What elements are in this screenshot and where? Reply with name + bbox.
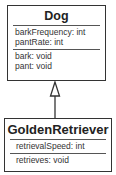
method: bark: void <box>15 51 105 61</box>
hollow-triangle-arrow-icon <box>51 82 60 96</box>
attributes-section: barkFrequency: int pantRate: int <box>8 26 105 49</box>
class-box-dog[interactable]: Dog barkFrequency: int pantRate: int bar… <box>7 5 106 81</box>
methods-section: retrieves: void <box>5 154 111 167</box>
class-box-golden-retriever[interactable]: GoldenRetriever retrievalSpeed: int retr… <box>4 118 112 172</box>
method: pant: void <box>15 61 105 71</box>
attribute: barkFrequency: int <box>15 27 105 37</box>
class-name: GoldenRetriever <box>5 119 111 139</box>
class-name: Dog <box>8 6 105 25</box>
methods-section: bark: void pant: void <box>8 50 105 73</box>
attribute: retrievalSpeed: int <box>16 141 111 151</box>
attributes-section: retrievalSpeed: int <box>5 140 111 153</box>
method: retrieves: void <box>16 155 111 165</box>
attribute: pantRate: int <box>15 37 105 47</box>
